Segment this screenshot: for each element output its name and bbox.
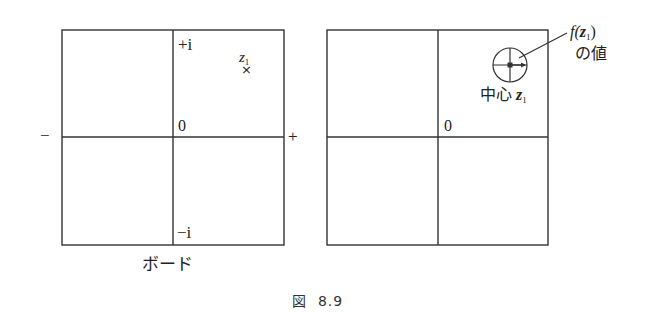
f-z1-label: f(z1): [570, 24, 596, 40]
plus-i-label: +i: [178, 36, 192, 53]
figure-caption: 図 8.9: [292, 294, 343, 308]
left-origin-label: 0: [178, 118, 186, 134]
f-close-paren: ): [591, 23, 596, 40]
right-board: [327, 30, 548, 245]
board-title: ボード: [142, 256, 193, 273]
center-z1-label: 中心 z1: [480, 87, 527, 103]
center-text: 中心: [480, 86, 512, 103]
z1-marker-icon: ×: [241, 63, 252, 76]
neg-real-label: −: [40, 127, 50, 144]
value-circle-icon: [493, 33, 567, 82]
pos-real-label: +: [288, 128, 298, 145]
caption-prefix: 図: [292, 293, 307, 309]
right-origin-label: 0: [444, 118, 452, 134]
value-of-label: の値: [575, 46, 607, 62]
plus-i-text: +i: [178, 35, 192, 54]
minus-i-label: −i: [177, 224, 191, 241]
center-subscript: 1: [522, 95, 527, 105]
caption-number: 8.9: [318, 293, 343, 309]
diagram-canvas: [0, 0, 655, 313]
f-arg-subscript: 1: [586, 32, 591, 42]
f-func: f(: [570, 23, 580, 40]
